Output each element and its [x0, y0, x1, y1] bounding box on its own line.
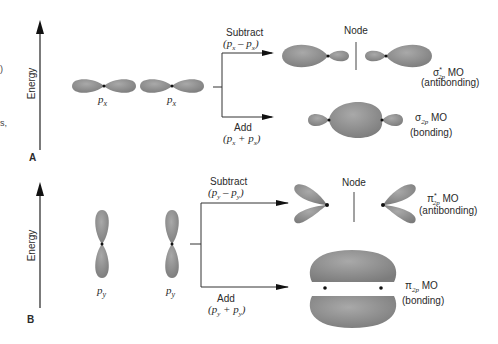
sigma-mo-label: σ2p MO: [415, 112, 447, 128]
pi-star-antibonding-orbital: [294, 184, 416, 223]
node-label-a: Node: [344, 25, 368, 36]
pi-mo-label: π2p MO: [405, 280, 438, 296]
py-orbital-1: [95, 210, 109, 278]
px-label-1: px: [98, 94, 107, 109]
px-label-2: px: [167, 94, 176, 109]
pi-desc: (bonding): [402, 295, 444, 306]
margin-fragment: ): [0, 64, 3, 74]
sigma-bonding-orbital: [308, 102, 403, 138]
sigma-star-desc: (antibonding): [421, 77, 479, 88]
pi-bonding-orbital: [310, 250, 396, 328]
subtract-expr-b: (py – py): [208, 187, 244, 203]
py-label-2: py: [166, 285, 175, 300]
subtract-expr-a: (px – px): [223, 38, 259, 54]
combination-bracket-a: [213, 50, 274, 120]
add-expr-a: (px + px): [223, 133, 261, 149]
energy-axis-label-b: Energy: [26, 230, 37, 262]
py-orbital-2: [165, 210, 179, 278]
sigma-desc: (bonding): [410, 127, 452, 138]
py-label-1: py: [97, 285, 106, 300]
px-orbital-1: [72, 79, 136, 93]
panel-letter-a: A: [29, 152, 36, 163]
combination-bracket-b: [190, 200, 289, 290]
margin-fragment: s,: [0, 118, 7, 128]
sigma-star-antibonding-orbital: [282, 42, 432, 70]
pi-star-desc: (antibonding): [419, 205, 477, 216]
node-label-b: Node: [342, 177, 366, 188]
energy-axis-label-a: Energy: [26, 68, 37, 100]
panel-letter-b: B: [27, 314, 34, 325]
px-orbital-2: [140, 79, 204, 93]
add-expr-b: (py + py): [208, 304, 246, 320]
